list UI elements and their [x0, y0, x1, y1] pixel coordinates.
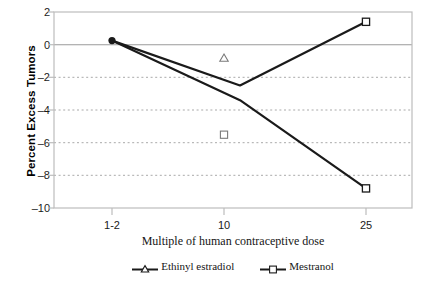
data-point-ethinyl-estradiol-25	[362, 18, 369, 25]
chart-legend: Ethinyl estradiol Mestranol	[54, 261, 412, 272]
data-point-mestranol-25	[362, 185, 369, 192]
data-point-start-marker	[108, 37, 115, 44]
y-axis-ticks	[48, 12, 54, 208]
legend-label: Mestranol	[289, 261, 334, 272]
x-axis-title: Multiple of human contraceptive dose	[54, 234, 412, 249]
x-axis-ticks	[112, 208, 366, 215]
legend-label: Ethinyl estradiol	[161, 261, 234, 272]
legend-item-mestranol[interactable]: Mestranol	[260, 261, 334, 272]
triangle-marker-icon	[132, 261, 158, 272]
data-point-mestranol-10	[220, 131, 227, 138]
square-marker-icon	[260, 261, 286, 272]
legend-item-ethinyl-estradiol[interactable]: Ethinyl estradiol	[132, 261, 234, 272]
chart-figure: Percent Excess Tumors 2 0 –2 –4 –6 –8 –1…	[0, 0, 441, 289]
